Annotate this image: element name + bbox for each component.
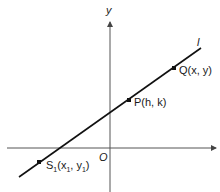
coordinate-diagram: y O l Q(x, y) P(h, k) S1(x1, y1) (0, 0, 220, 192)
origin-label: O (99, 151, 108, 163)
point-q-label: Q(x, y) (179, 64, 212, 76)
point-p-label: P(h, k) (134, 96, 166, 108)
line-l-label: l (197, 36, 200, 48)
point-q-marker (172, 66, 176, 70)
point-s1-label: S1(x1, y1) (46, 159, 90, 173)
point-p-marker (127, 98, 131, 102)
y-axis-label: y (105, 4, 113, 16)
point-s1-marker (37, 160, 41, 164)
